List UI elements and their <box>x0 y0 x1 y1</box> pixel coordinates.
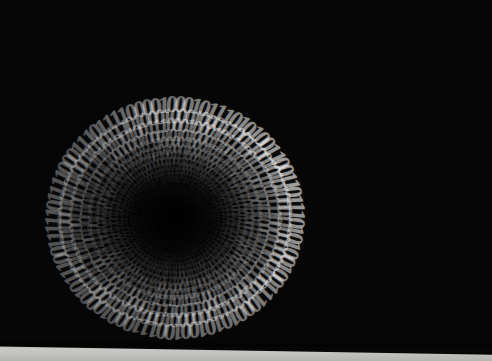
binary-digit: 0 <box>187 224 192 229</box>
binary-digit: 1 <box>193 220 199 224</box>
binary-digit: 1 <box>232 167 251 182</box>
binary-digit: 1 <box>211 136 229 156</box>
binary-digit: 1 <box>155 238 162 246</box>
binary-digit: 0 <box>187 197 193 203</box>
binary-digit: 1 <box>256 156 280 175</box>
binary-digit: 0 <box>156 126 166 145</box>
binary-digit: 0 <box>158 214 163 217</box>
binary-digit: 0 <box>178 202 182 207</box>
binary-digit: 0 <box>266 176 290 191</box>
binary-digit: 0 <box>166 190 170 197</box>
binary-digit: 0 <box>208 152 224 168</box>
binary-digit: 0 <box>184 222 188 226</box>
binary-digit: 1 <box>183 200 188 205</box>
binary-digit: 0 <box>172 228 175 232</box>
binary-digit: 0 <box>164 214 167 217</box>
binary-digit: 0 <box>166 183 171 191</box>
binary-digit: 0 <box>147 213 153 217</box>
binary-digit: 1 <box>176 228 178 232</box>
binary-digit: 1 <box>172 252 178 262</box>
binary-digit: 1 <box>149 186 157 195</box>
binary-digit: 0 <box>115 161 131 177</box>
binary-digit: 1 <box>224 211 236 217</box>
binary-digit: 0 <box>62 144 88 168</box>
binary-digit: 1 <box>247 258 269 278</box>
binary-digit: 1 <box>204 222 212 228</box>
binary-digit: 0 <box>213 202 224 209</box>
binary-digit: 1 <box>168 231 172 236</box>
binary-digit: 0 <box>195 193 204 201</box>
binary-digit: 0 <box>182 210 186 213</box>
binary-digit: 0 <box>163 228 168 233</box>
binary-digit: 0 <box>170 206 173 210</box>
binary-digit: 1 <box>58 182 82 200</box>
binary-digit: 1 <box>156 220 161 223</box>
binary-digit: 0 <box>133 264 147 279</box>
binary-digit: 1 <box>164 142 172 157</box>
binary-digit: 0 <box>184 204 189 209</box>
binary-digit: 1 <box>207 207 216 212</box>
binary-digit: 0 <box>180 175 187 185</box>
binary-digit: 1 <box>199 148 214 165</box>
binary-digit: 0 <box>180 217 183 218</box>
binary-digit: 1 <box>100 165 118 182</box>
binary-digit: 1 <box>238 280 260 304</box>
binary-digit: 1 <box>183 217 186 219</box>
binary-digit: 0 <box>184 192 190 199</box>
binary-digit: 1 <box>164 229 169 234</box>
binary-digit: 1 <box>143 191 152 200</box>
binary-digit: 0 <box>100 181 117 195</box>
binary-digit: 0 <box>176 202 179 207</box>
binary-digit: 1 <box>93 206 109 216</box>
binary-digit: 1 <box>182 241 187 249</box>
binary-digit: 1 <box>172 204 174 208</box>
binary-digit: 0 <box>161 176 167 186</box>
binary-digit: 1 <box>192 217 197 220</box>
binary-digit: 1 <box>119 190 132 201</box>
binary-digit: 0 <box>145 208 152 213</box>
binary-digit: 1 <box>244 262 266 282</box>
binary-digit: 0 <box>171 231 174 236</box>
binary-digit: 0 <box>180 211 183 214</box>
binary-digit: 0 <box>109 200 123 210</box>
binary-digit: 0 <box>164 234 169 240</box>
binary-digit: 1 <box>78 256 100 273</box>
binary-digit: 1 <box>168 219 171 221</box>
binary-digit: 0 <box>106 187 122 200</box>
binary-digit: 0 <box>174 186 179 194</box>
binary-digit: 0 <box>199 203 207 209</box>
binary-digit: 0 <box>158 240 165 248</box>
binary-digit: 1 <box>161 224 166 228</box>
binary-digit: 1 <box>103 231 118 240</box>
binary-digit: 0 <box>193 199 200 205</box>
binary-digit: 0 <box>167 245 173 253</box>
binary-digit: 0 <box>176 226 178 230</box>
binary-digit: 0 <box>183 217 186 219</box>
binary-digit: 1 <box>149 246 158 256</box>
binary-digit: 0 <box>215 232 227 242</box>
binary-digit: 1 <box>242 237 261 251</box>
binary-digit: 0 <box>235 236 252 250</box>
binary-digit: 1 <box>139 244 150 254</box>
binary-digit: 1 <box>179 195 184 201</box>
binary-digit: 1 <box>163 231 168 237</box>
binary-digit: 0 <box>144 212 151 217</box>
binary-digit: 0 <box>95 274 117 294</box>
binary-digit: 1 <box>218 224 230 232</box>
binary-digit: 1 <box>163 224 167 228</box>
binary-digit: 1 <box>205 227 214 234</box>
binary-digit: 1 <box>166 273 175 288</box>
binary-digit: 0 <box>194 165 205 178</box>
binary-digit: 0 <box>227 200 241 208</box>
binary-digit: 0 <box>58 151 84 174</box>
binary-digit: 1 <box>129 248 142 260</box>
binary-digit: 1 <box>168 222 171 225</box>
binary-digit: 0 <box>185 224 190 228</box>
binary-digit: 1 <box>74 267 98 287</box>
binary-digit: 1 <box>189 270 199 285</box>
binary-digit: 1 <box>185 172 194 183</box>
binary-digit: 0 <box>153 200 159 206</box>
binary-digit: 0 <box>252 265 276 287</box>
binary-digit: 1 <box>202 99 223 126</box>
binary-digit: 1 <box>163 220 167 222</box>
